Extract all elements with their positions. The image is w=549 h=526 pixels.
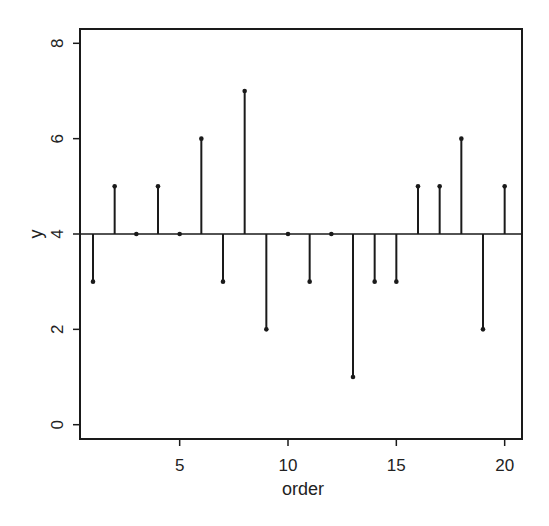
data-point — [134, 232, 139, 237]
stem-6 — [199, 136, 204, 234]
data-point — [307, 279, 312, 284]
data-point — [112, 184, 117, 189]
y-axis-title: y — [26, 230, 46, 239]
stem-1 — [91, 234, 96, 284]
data-point — [459, 136, 464, 141]
y-axis-ticks: 02468 — [48, 39, 80, 430]
x-tick-label: 5 — [175, 456, 184, 475]
data-point — [372, 279, 377, 284]
stem-9 — [264, 234, 269, 332]
data-point — [416, 184, 421, 189]
data-point — [156, 184, 161, 189]
data-point — [199, 136, 204, 141]
x-tick-label: 10 — [279, 456, 298, 475]
stem-14 — [372, 234, 377, 284]
stem-2 — [112, 184, 117, 234]
data-point — [437, 184, 442, 189]
y-tick-label: 6 — [48, 134, 67, 143]
stem-12 — [329, 232, 334, 237]
stem-chart: 5101520 02468 order y — [0, 0, 549, 526]
data-point — [177, 232, 182, 237]
stem-5 — [177, 232, 182, 237]
x-axis-ticks: 5101520 — [175, 439, 514, 475]
data-point — [221, 279, 226, 284]
y-tick-label: 4 — [48, 229, 67, 238]
stem-4 — [156, 184, 161, 234]
stem-15 — [394, 234, 399, 284]
y-tick-label: 8 — [48, 39, 67, 48]
data-point — [329, 232, 334, 237]
data-point — [502, 184, 507, 189]
stem-13 — [351, 234, 356, 379]
data-point — [351, 375, 356, 380]
stem-8 — [242, 89, 247, 234]
data-point — [481, 327, 486, 332]
stem-19 — [481, 234, 486, 332]
data-point — [242, 89, 247, 94]
stem-17 — [437, 184, 442, 234]
x-axis-title: order — [282, 479, 324, 499]
x-tick-label: 20 — [495, 456, 514, 475]
stem-11 — [307, 234, 312, 284]
stem-7 — [221, 234, 226, 284]
data-point — [394, 279, 399, 284]
data-point — [286, 232, 291, 237]
stem-16 — [416, 184, 421, 234]
y-tick-label: 2 — [48, 325, 67, 334]
data-point — [264, 327, 269, 332]
stem-10 — [286, 232, 291, 237]
stem-3 — [134, 232, 139, 237]
data-point — [91, 279, 96, 284]
y-tick-label: 0 — [48, 420, 67, 429]
stem-18 — [459, 136, 464, 234]
stem-20 — [502, 184, 507, 234]
x-tick-label: 15 — [387, 456, 406, 475]
